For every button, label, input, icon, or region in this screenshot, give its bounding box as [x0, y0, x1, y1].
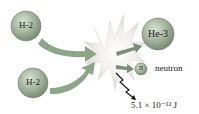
energy-label: 5.1 × 10⁻¹³ J: [131, 100, 177, 110]
reactant-arrow-bottom: [50, 62, 95, 94]
neutron-symbol: n: [136, 63, 146, 72]
reactant-arrow-top: [38, 38, 97, 62]
fusion-diagram: [0, 0, 199, 114]
reactant-label-top: H-2: [11, 20, 41, 30]
reactant-label-bottom: H-2: [18, 77, 48, 87]
neutron-label: neutron: [155, 63, 183, 73]
product-label-helium: He-3: [142, 28, 174, 39]
